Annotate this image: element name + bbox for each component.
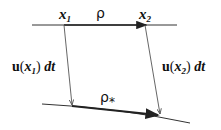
flow-map-diagram: x1 ρ x2 u(x1) dt u(x2) dt ρ* [0,0,221,130]
right-displacement-arrow [145,25,160,114]
x2-label: x2 [139,7,151,24]
right-velocity-label: u(x2) dt [162,60,205,76]
left-displacement-arrow [64,25,72,105]
rho-label: ρ [96,6,105,20]
left-velocity-label: u(x1) dt [12,60,55,76]
rho-star-label: ρ* [100,90,115,108]
x1-label: x1 [59,7,71,24]
bottom-curve [42,104,190,123]
rho-star-arrow [72,106,158,115]
